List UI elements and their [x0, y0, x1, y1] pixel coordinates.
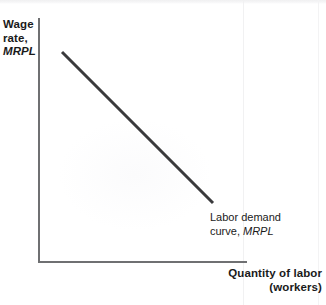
- x-axis-title-line-2: (workers): [140, 281, 322, 295]
- demand-curve-annotation-line-2: curve, MRPL: [210, 224, 281, 238]
- demand-curve-layer: [0, 0, 326, 305]
- x-axis-title-line-1: Quantity of labor: [140, 267, 322, 281]
- labor-demand-curve-line: [62, 52, 213, 203]
- labor-demand-chart-figure: Wage rate, MRPL Labor demand curve, MRPL…: [0, 0, 326, 305]
- demand-curve-annotation-prefix: curve,: [210, 225, 243, 237]
- x-axis-title: Quantity of labor (workers): [140, 267, 322, 294]
- demand-curve-annotation: Labor demand curve, MRPL: [210, 210, 281, 238]
- demand-curve-annotation-symbol: MRPL: [243, 225, 274, 237]
- demand-curve-annotation-line-1: Labor demand: [210, 210, 281, 224]
